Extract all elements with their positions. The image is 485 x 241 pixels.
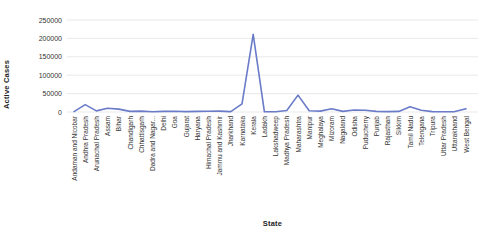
y-tick-label: 150000 xyxy=(39,53,62,60)
active-cases-by-state-chart: 050000100000150000200000250000 Andaman a… xyxy=(0,0,485,241)
y-tick-label: 200000 xyxy=(39,35,62,42)
y-tick-labels: 050000100000150000200000250000 xyxy=(39,17,62,116)
x-tick-label: Delhi xyxy=(160,116,167,131)
x-tick-label: Jharkhand xyxy=(227,116,234,147)
y-axis-title: Active Cases xyxy=(2,52,11,118)
line-series xyxy=(74,34,466,111)
x-tick-label: Telengana xyxy=(418,116,426,146)
chart-svg: 050000100000150000200000250000 Andaman a… xyxy=(0,0,485,241)
x-tick-label: Mizoram xyxy=(328,116,335,141)
y-tick-label: 250000 xyxy=(39,17,62,24)
x-tick-label: Sikkim xyxy=(395,116,402,135)
x-tick-label: Chandigarh xyxy=(127,116,135,150)
x-tick-label: Arunachal Pradesh xyxy=(93,116,100,172)
x-tick-label: Punjab xyxy=(373,116,381,137)
active-cases-line xyxy=(74,34,466,111)
x-tick-label: Uttarakhand xyxy=(451,116,458,152)
x-tick-label: West Bengal xyxy=(463,115,471,152)
x-tick-label: Nagaland xyxy=(339,116,347,144)
y-tick-label: 50000 xyxy=(43,90,63,97)
gridlines xyxy=(67,20,478,112)
x-tick-label: Maharashtra xyxy=(295,116,302,153)
x-axis-title: State xyxy=(67,219,478,228)
x-tick-label: Jammu and Kashmir xyxy=(216,115,223,175)
x-tick-label: Meghalaya xyxy=(317,116,325,148)
x-tick-label: Puducherry xyxy=(362,115,370,149)
x-tick-label: Dadra and Nagar... xyxy=(149,116,157,171)
x-tick-label: Tamil Nadu xyxy=(407,116,414,149)
x-tick-label: Goa xyxy=(171,116,178,129)
x-tick-label: Karnataka xyxy=(239,116,246,146)
x-tick-label: Madhya Pradesh xyxy=(283,116,291,166)
x-tick-label: Andaman and Nicobar xyxy=(71,115,78,181)
y-tick-label: 100000 xyxy=(39,72,62,79)
x-tick-label: Uttar Pradesh xyxy=(440,116,447,156)
x-tick-label: Ladakh xyxy=(261,116,268,138)
x-tick-label: Manipur xyxy=(306,115,314,139)
x-tick-label: Bihar xyxy=(115,115,122,131)
x-tick-label: Lakshadweep xyxy=(272,116,280,156)
x-tick-label: Himachal Pradesh xyxy=(205,116,212,169)
x-tick-label: Kerala xyxy=(250,116,257,135)
x-tick-label: Tripura xyxy=(429,116,437,137)
x-tick-labels: Andaman and NicobarAndhra PradeshArunach… xyxy=(71,115,471,181)
x-tick-label: Odisha xyxy=(351,116,358,137)
y-tick-label: 0 xyxy=(58,109,62,116)
x-tick-label: Rajasthan xyxy=(384,116,392,146)
x-tick-label: Chhattisgarh xyxy=(138,116,146,153)
x-tick-label: Haryana xyxy=(194,116,202,141)
x-tick-label: Gujarat xyxy=(183,116,191,138)
x-tick-label: Assam xyxy=(104,116,111,136)
x-tick-label: Andhra Pradesh xyxy=(82,116,89,163)
